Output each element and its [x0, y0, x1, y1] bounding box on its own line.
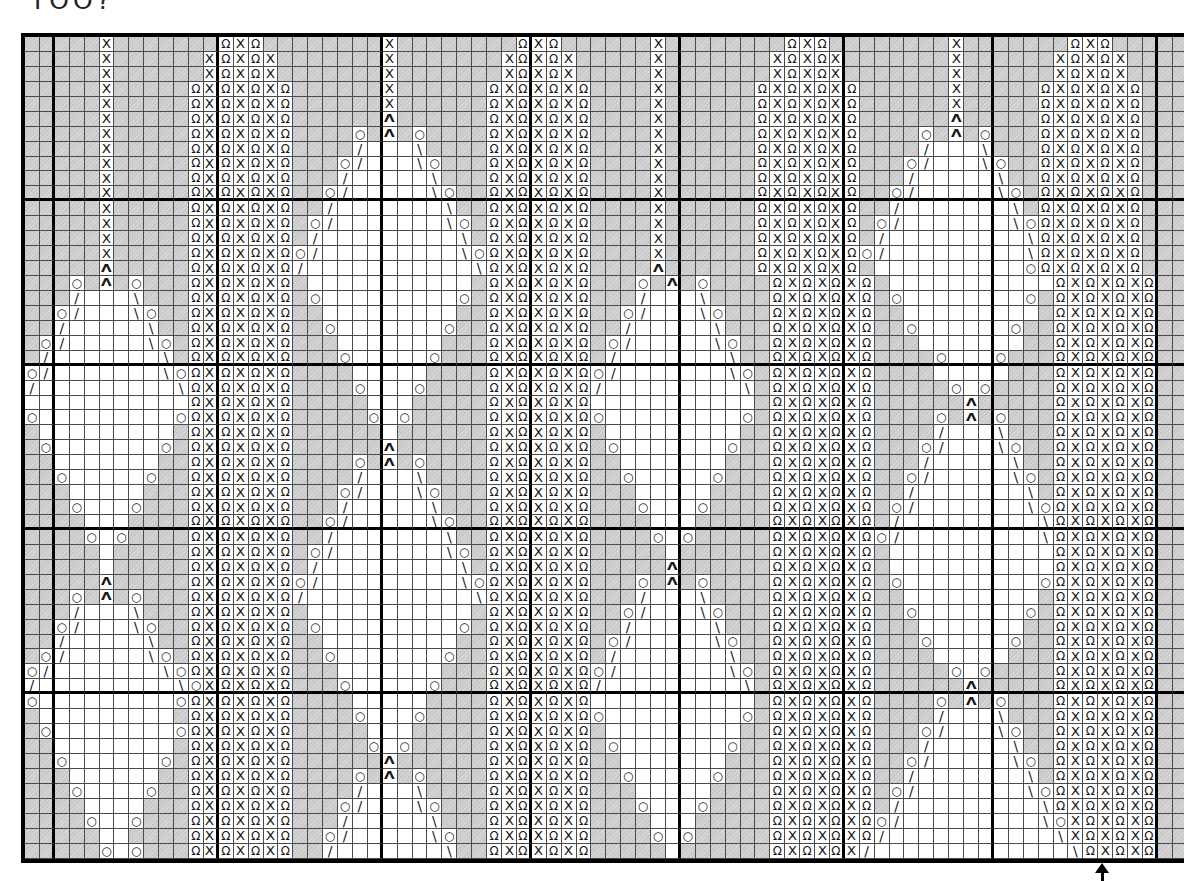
- chart-cell: [129, 709, 144, 724]
- chart-cell: [621, 52, 636, 67]
- chart-cell: Ω: [189, 425, 204, 440]
- chart-cell: [890, 97, 905, 112]
- twisted-purl-icon: Ω: [1144, 411, 1153, 424]
- twisted-purl-icon: Ω: [489, 829, 498, 842]
- chart-cell: [919, 769, 934, 784]
- ssk-icon: \: [999, 440, 1004, 454]
- chart-cell: [1173, 605, 1184, 620]
- chart-cell: [85, 560, 100, 575]
- twisted-knit-icon: X: [1071, 770, 1080, 782]
- chart-cell: [398, 635, 413, 650]
- chart-cell: Ω: [189, 590, 204, 605]
- chart-cell: [308, 52, 323, 67]
- chart-cell: [964, 649, 979, 664]
- chart-cell: [934, 470, 949, 485]
- chart-cell: X: [204, 575, 219, 590]
- chart-cell: [979, 67, 994, 82]
- chart-cell: Ω: [1143, 410, 1158, 425]
- chart-cell: [711, 739, 726, 754]
- chart-cell: Ω: [800, 455, 815, 470]
- chart-cell: [904, 679, 919, 694]
- chart-cell: [964, 515, 979, 530]
- twisted-knit-icon: X: [504, 844, 513, 856]
- chart-cell: [860, 231, 875, 246]
- chart-cell: X: [204, 351, 219, 366]
- chart-cell: X: [1068, 694, 1083, 709]
- chart-cell: [1143, 216, 1158, 231]
- chart-cell: [353, 186, 368, 201]
- chart-cell: Ω: [1143, 679, 1158, 694]
- chart-cell: [25, 739, 40, 754]
- twisted-knit-icon: X: [534, 83, 543, 95]
- chart-cell: Ω: [278, 754, 293, 769]
- chart-cell: X: [204, 142, 219, 157]
- chart-cell: Ω: [249, 186, 264, 201]
- twisted-knit-icon: X: [266, 292, 275, 304]
- chart-cell: [964, 829, 979, 844]
- chart-cell: Ω: [487, 261, 502, 276]
- chart-cell: [114, 82, 129, 97]
- chart-cell: [40, 112, 55, 127]
- twisted-purl-icon: Ω: [1116, 277, 1125, 290]
- chart-cell: [621, 351, 636, 366]
- twisted-knit-icon: X: [847, 515, 856, 527]
- twisted-purl-icon: Ω: [817, 172, 826, 185]
- chart-cell: [25, 799, 40, 814]
- chart-cell: \: [174, 679, 189, 694]
- twisted-purl-icon: Ω: [251, 351, 260, 363]
- twisted-purl-icon: Ω: [489, 232, 498, 245]
- chart-cell: [860, 201, 875, 216]
- chart-cell: X: [1083, 37, 1098, 52]
- twisted-knit-icon: X: [817, 441, 826, 453]
- chart-cell: X: [264, 336, 279, 351]
- chart-cell: [129, 560, 144, 575]
- chart-cell: [726, 485, 741, 500]
- chart-cell: [711, 97, 726, 112]
- chart-cell: [890, 739, 905, 754]
- chart-cell: [934, 112, 949, 127]
- twisted-knit-icon: X: [236, 829, 245, 841]
- chart-cell: [726, 186, 741, 201]
- chart-cell: [711, 455, 726, 470]
- chart-cell: Ω: [577, 425, 592, 440]
- chart-cell: X: [1128, 560, 1143, 575]
- chart-cell: X: [785, 769, 800, 784]
- chart-cell: [159, 67, 174, 82]
- ssk-icon: \: [417, 470, 422, 484]
- chart-cell: Ω: [278, 246, 293, 261]
- chart-cell: [40, 694, 55, 709]
- chart-cell: X: [562, 814, 577, 829]
- k2tog-icon: /: [343, 186, 348, 199]
- chart-cell: X: [1068, 799, 1083, 814]
- chart-cell: \: [144, 336, 159, 351]
- chart-cell: [1158, 351, 1173, 366]
- chart-cell: Ω: [547, 724, 562, 739]
- chart-cell: [144, 844, 159, 859]
- chart-cell: Ω: [815, 201, 830, 216]
- chart-cell: [174, 829, 189, 844]
- ssk-icon: \: [134, 306, 139, 320]
- twisted-knit-icon: X: [1056, 232, 1065, 244]
- chart-cell: [651, 709, 666, 724]
- chart-cell: Ω: [517, 530, 532, 545]
- chart-cell: X: [234, 351, 249, 366]
- chart-cell: Ω: [249, 844, 264, 859]
- chart-cell: [398, 515, 413, 530]
- chart-cell: [114, 366, 129, 381]
- twisted-purl-icon: Ω: [802, 650, 811, 663]
- twisted-purl-icon: Ω: [1056, 755, 1065, 768]
- chart-cell: [636, 814, 651, 829]
- chart-cell: [1009, 679, 1024, 694]
- chart-cell: [875, 769, 890, 784]
- chart-cell: [40, 127, 55, 142]
- chart-cell: Ω: [517, 844, 532, 859]
- twisted-knit-icon: X: [102, 217, 111, 229]
- chart-cell: [368, 545, 383, 560]
- chart-cell: [144, 52, 159, 67]
- chart-cell: Ω: [219, 142, 234, 157]
- chart-cell: [368, 575, 383, 590]
- ssk-icon: \: [745, 381, 750, 395]
- chart-cell: [100, 799, 115, 814]
- chart-cell: Ω: [189, 724, 204, 739]
- chart-cell: [1054, 37, 1069, 52]
